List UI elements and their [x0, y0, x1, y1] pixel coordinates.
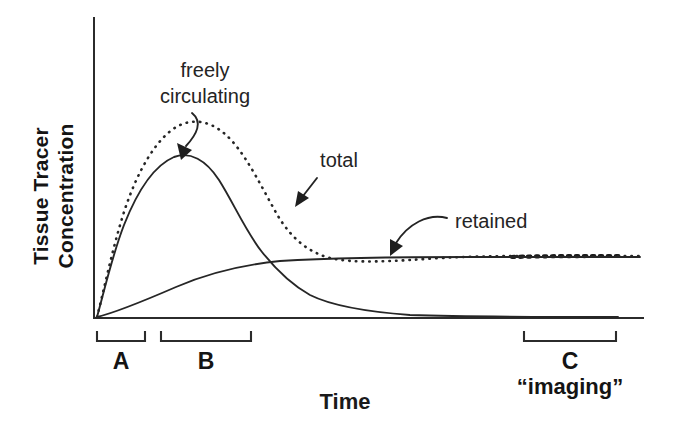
annotation-freely-circulating: freely circulating	[160, 59, 250, 160]
annotation-retained: retained	[390, 210, 527, 256]
y-axis-title-line1: Tissue Tracer	[29, 127, 52, 265]
axes-group	[94, 18, 643, 318]
phase-bracket-c: C “imaging”	[517, 331, 623, 399]
retained-arrow-shaft	[396, 217, 447, 243]
freely-circulating-arrow-head	[177, 143, 192, 160]
phase-bracket-b: B	[161, 331, 251, 374]
x-axis-title: Time	[320, 389, 371, 414]
y-axis-title-line2: Concentration	[54, 124, 77, 269]
phase-a-bracket-path	[97, 331, 145, 341]
phase-c-label: C	[562, 348, 579, 374]
series-freely-circulating	[97, 155, 618, 317]
phase-a-label: A	[113, 348, 130, 374]
retained-label: retained	[455, 210, 527, 232]
phase-b-label: B	[198, 348, 215, 374]
total-arrow-head	[295, 191, 309, 207]
total-arrow-shaft	[303, 178, 317, 196]
phase-c-sublabel-imaging: “imaging”	[517, 374, 623, 399]
series-retained	[97, 257, 640, 317]
freely-circulating-label-line2: circulating	[160, 85, 250, 107]
freely-circulating-arrow-shaft	[186, 113, 198, 146]
series-total	[97, 122, 640, 317]
phase-bracket-a: A	[97, 331, 145, 374]
y-axis-title: Tissue Tracer Concentration	[29, 124, 77, 269]
x-axis-title-label: Time	[320, 389, 371, 414]
annotation-total: total	[295, 149, 358, 207]
tracer-kinetics-chart: freely circulating total retained A B	[0, 0, 677, 435]
freely-circulating-curve-path	[97, 155, 618, 317]
retained-curve-path	[97, 257, 640, 317]
chart-canvas: freely circulating total retained A B	[0, 0, 677, 435]
freely-circulating-label-line1: freely	[181, 59, 230, 81]
total-label: total	[320, 149, 358, 171]
phase-c-bracket-path	[524, 331, 616, 341]
phase-b-bracket-path	[161, 331, 251, 341]
